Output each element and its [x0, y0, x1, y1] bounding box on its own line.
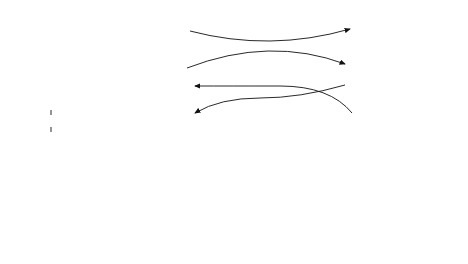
dpn-reduction-arrow	[190, 29, 350, 41]
reaction-diagram	[0, 0, 468, 264]
fad-oxidation-arrow	[187, 51, 345, 68]
fadh2-return-arrow	[195, 86, 352, 113]
cofactor-cycle	[187, 29, 352, 113]
disulfide-regeneration-arrow	[195, 85, 345, 113]
